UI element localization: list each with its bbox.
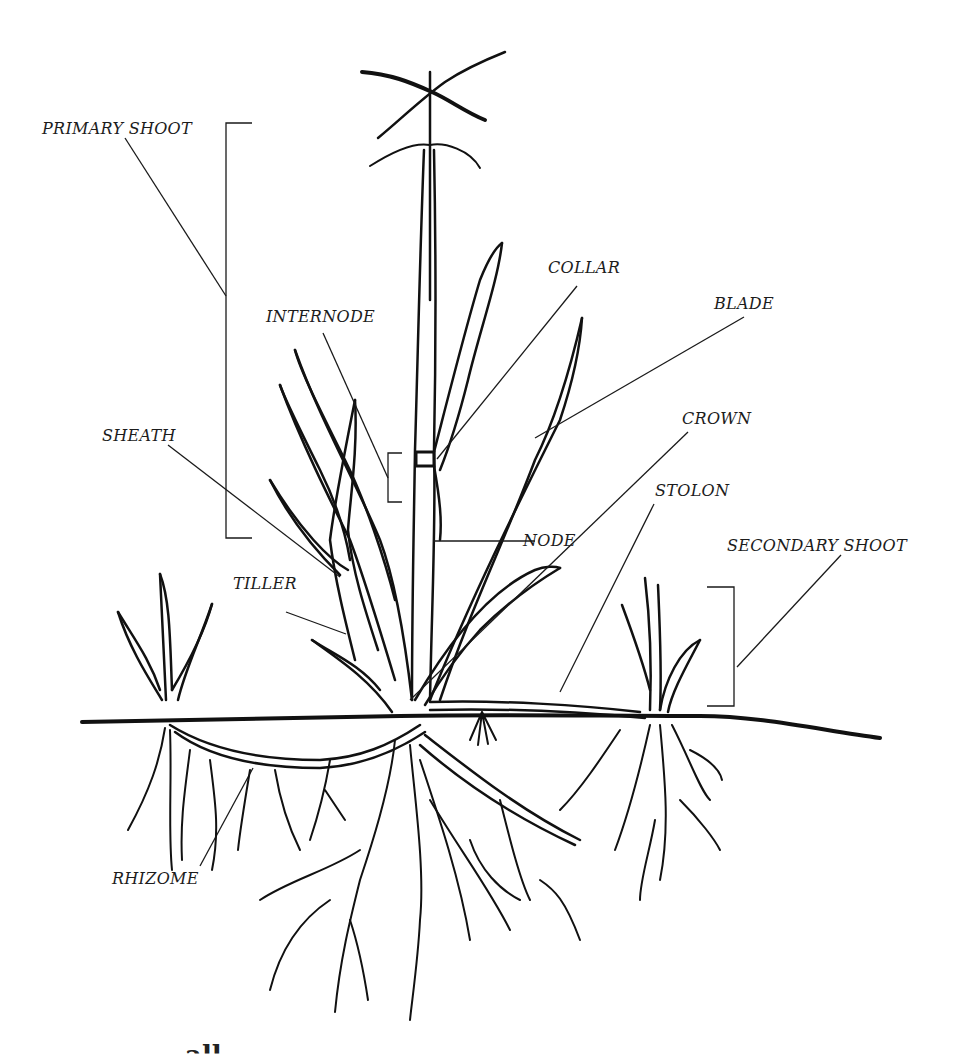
left-small-shoot [118,574,212,700]
leaf-blade-upper [434,243,502,470]
secondary-shoot-bracket [707,587,734,706]
primary-shoot-bracket [125,123,252,538]
plant-illustration [0,0,966,1062]
label-rhizome: RHIZOME [112,869,199,888]
internode-bracket [323,333,402,502]
label-tiller: TILLER [233,574,297,593]
stolon [430,702,645,745]
label-collar: COLLAR [548,258,620,277]
label-primary-shoot: PRIMARY SHOOT [42,119,192,138]
leaves-left [270,350,412,712]
roots [128,725,722,1020]
grass-anatomy-diagram: PRIMARY SHOOT INTERNODE COLLAR BLADE SHE… [0,0,966,1062]
label-crown: CROWN [682,409,751,428]
leaf-crown [415,567,560,705]
label-sheath: SHEATH [102,426,176,445]
secondary-shoot [622,578,700,712]
label-blade: BLADE [714,294,774,313]
label-internode: INTERNODE [266,307,375,326]
label-secondary-shoot: SECONDARY SHOOT [727,536,907,555]
label-node: NODE [523,531,576,550]
main-culm [412,150,441,700]
label-stolon: STOLON [655,481,729,500]
rhizome [170,725,580,845]
